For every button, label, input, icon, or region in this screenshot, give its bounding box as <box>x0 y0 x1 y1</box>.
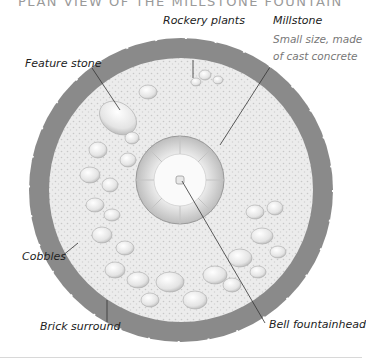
label-cobbles: Cobbles <box>22 250 66 263</box>
label-millstone-note-2: of cast concrete <box>273 48 358 65</box>
label-rockery-plants: Rockery plants <box>163 14 245 27</box>
label-millstone: Millstone <box>273 14 322 27</box>
label-bell-fountainhead: Bell fountainhead <box>269 318 366 331</box>
label-brick-surround: Brick surround <box>40 320 120 333</box>
label-feature-stone: Feature stone <box>25 57 101 70</box>
bottom-rule <box>0 357 362 358</box>
millstone <box>136 136 224 224</box>
label-millstone-note-1: Small size, made <box>273 31 362 48</box>
